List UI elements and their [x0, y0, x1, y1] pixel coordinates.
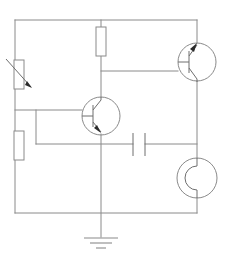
transistor-middle-emitter-arrow [94, 125, 101, 133]
circle-device-bottom-right [177, 158, 217, 198]
schematic-drawing [0, 0, 227, 263]
transistor-middle-collector-lead [93, 100, 101, 110]
resistor-top-middle [96, 27, 106, 56]
ground-symbol [84, 238, 118, 248]
circle-device-inner-arc [185, 158, 197, 198]
resistor-lower-left [14, 131, 24, 160]
transistor-middle [82, 97, 120, 135]
circuit-diagram-canvas [0, 0, 227, 263]
resistor-top-middle-body [96, 27, 106, 56]
transistor-top-right [178, 43, 216, 82]
transistor-top-right-collector-lead [189, 68, 197, 79]
resistor-lower-left-body [14, 131, 24, 160]
variable-resistor-body [14, 60, 24, 89]
capacitor [133, 133, 145, 156]
variable-resistor [6, 59, 32, 89]
